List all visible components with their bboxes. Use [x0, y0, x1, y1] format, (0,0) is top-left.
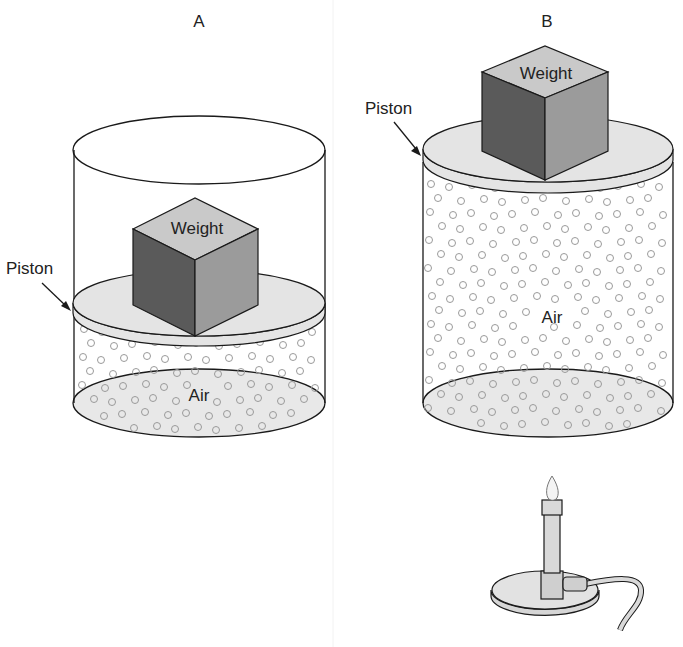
- cylinder-b: Weight Air: [423, 46, 673, 437]
- air-molecule: [110, 371, 117, 378]
- air-molecule: [649, 223, 656, 230]
- air-molecule: [543, 251, 550, 258]
- air-molecule: [492, 325, 499, 332]
- air-molecule: [427, 349, 434, 356]
- air-molecule: [561, 254, 568, 261]
- gas-law-diagram: A Weight Air Piston: [0, 0, 683, 647]
- panel-b: B Weight Air Piston: [365, 12, 673, 630]
- air-molecule: [585, 364, 592, 371]
- air-molecule: [512, 267, 519, 274]
- air-molecule: [80, 354, 87, 361]
- air-molecule: [607, 255, 614, 262]
- air-molecule: [637, 349, 644, 356]
- air-molecule: [648, 251, 655, 258]
- air-molecule: [626, 365, 633, 372]
- bunsen-burner-icon: [491, 476, 641, 630]
- air-molecule: [499, 199, 506, 206]
- air-molecule: [457, 366, 464, 373]
- air-molecule: [447, 296, 454, 303]
- air-molecule: [618, 239, 625, 246]
- air-molecule: [426, 377, 433, 384]
- air-molecule: [478, 280, 485, 287]
- air-molecule: [586, 196, 593, 203]
- air-molecule: [604, 199, 611, 206]
- air-molecule: [446, 184, 453, 191]
- air-molecule: [554, 240, 561, 247]
- air-molecule: [575, 294, 582, 301]
- air-molecule: [477, 308, 484, 315]
- air-molecule: [471, 266, 478, 273]
- air-molecule: [448, 268, 455, 275]
- air-molecule: [606, 283, 613, 290]
- air-molecule: [614, 351, 621, 358]
- air-molecule: [509, 211, 516, 218]
- air-molecule: [649, 363, 656, 370]
- air-molecule: [586, 336, 593, 343]
- air-molecule: [470, 294, 477, 301]
- air-molecule: [573, 210, 580, 217]
- air-molecule: [460, 282, 467, 289]
- piston-b-arrow: [394, 122, 421, 156]
- piston-a-arrow: [42, 283, 71, 311]
- air-molecule: [509, 351, 516, 358]
- air-molecule: [638, 321, 645, 328]
- air-molecule: [450, 352, 457, 359]
- air-molecule: [576, 266, 583, 273]
- air-molecule: [540, 195, 547, 202]
- air-molecule: [635, 265, 642, 272]
- air-molecule: [552, 296, 559, 303]
- air-molecule: [436, 307, 443, 314]
- piston-b-label: Piston: [365, 99, 412, 118]
- air-molecule: [491, 353, 498, 360]
- air-molecule: [510, 323, 517, 330]
- air-molecule: [308, 357, 315, 364]
- air-molecule: [625, 253, 632, 260]
- air-molecule: [594, 269, 601, 276]
- air-molecule: [555, 212, 562, 219]
- air-molecule: [617, 267, 624, 274]
- air-molecule: [481, 196, 488, 203]
- air-molecule: [450, 212, 457, 219]
- air-molecule: [111, 343, 118, 350]
- air-molecule: [203, 357, 210, 364]
- air-molecule: [532, 349, 539, 356]
- weight-b-label: Weight: [520, 64, 573, 83]
- air-molecule: [639, 293, 646, 300]
- air-molecule: [425, 265, 432, 272]
- air-molecule: [656, 324, 663, 331]
- air-molecule: [563, 338, 570, 345]
- air-molecule: [429, 293, 436, 300]
- air-molecule: [530, 265, 537, 272]
- air-molecule: [645, 195, 652, 202]
- air-molecule: [427, 209, 434, 216]
- air-molecule: [480, 364, 487, 371]
- air-molecule: [88, 340, 95, 347]
- air-molecule: [468, 350, 475, 357]
- panel-a: A Weight Air Piston: [6, 12, 325, 437]
- air-molecule: [279, 370, 286, 377]
- air-molecule: [660, 212, 667, 219]
- air-molecule: [458, 198, 465, 205]
- air-molecule: [603, 227, 610, 234]
- air-molecule: [98, 357, 105, 364]
- air-molecule: [593, 297, 600, 304]
- air-molecule: [626, 225, 633, 232]
- air-molecule: [280, 342, 287, 349]
- air-molecule: [584, 252, 591, 259]
- air-molecule: [574, 322, 581, 329]
- air-molecule: [297, 368, 304, 375]
- weight-b: Weight: [482, 46, 608, 180]
- air-molecule: [540, 335, 547, 342]
- air-molecule: [657, 296, 664, 303]
- air-molecule: [489, 269, 496, 276]
- panel-a-title: A: [193, 12, 205, 31]
- air-molecule: [637, 209, 644, 216]
- air-molecule: [121, 355, 128, 362]
- cylinder-a-rim: [73, 116, 325, 184]
- air-molecule: [513, 239, 520, 246]
- air-molecule: [553, 268, 560, 275]
- air-molecule: [185, 354, 192, 361]
- air-molecule: [435, 195, 442, 202]
- air-molecule: [604, 339, 611, 346]
- air-molecule: [645, 335, 652, 342]
